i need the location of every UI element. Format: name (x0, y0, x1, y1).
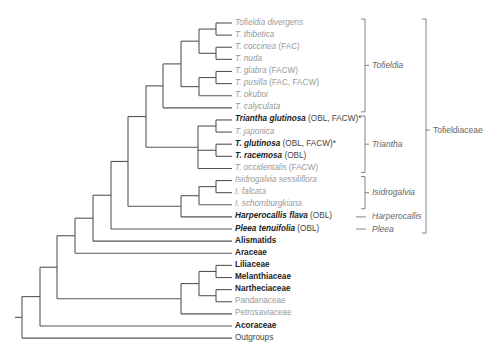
leaf-label: Petrosaviaceae (235, 308, 291, 318)
taxon-name: Pleea tenuifolia (235, 224, 295, 233)
taxon-name: Petrosaviaceae (235, 308, 291, 317)
leaf-label: Tofieldia divergens (235, 18, 303, 28)
taxon-name: Acoraceae (235, 321, 276, 330)
genus-label: Pleea (372, 224, 394, 234)
genus-label: Tofieldia (372, 60, 403, 70)
taxon-name: I. falcata (235, 187, 266, 196)
taxon-name: Tofieldia divergens (235, 18, 303, 27)
leaf-label: Acoraceae (235, 321, 276, 331)
leaf-label: Harperocallis flava (OBL) (235, 211, 332, 221)
leaf-label: Liliaceae (235, 260, 270, 270)
leaf-label: T. calyculata (235, 102, 280, 112)
taxon-name: Isidrogalvia sessiliflora (235, 175, 317, 184)
genus-label: Triantha (372, 139, 403, 149)
leaf-label: T. nuda (235, 54, 262, 64)
taxon-name: Harperocallis flava (235, 211, 308, 220)
taxon-name: Liliaceae (235, 260, 270, 269)
taxon-name: T. nuda (235, 54, 262, 63)
taxon-name: Nartheciaceae (235, 284, 291, 293)
leaf-label: T. racemosa (OBL) (235, 151, 306, 161)
taxon-name: T. glutinosa (235, 139, 280, 148)
habitat-note: (OBL) (295, 224, 319, 233)
taxon-name: T. thibetica (235, 30, 274, 39)
leaf-label: Outgroups (235, 333, 273, 343)
leaf-label: I. schomburgkiana (235, 199, 302, 209)
habitat-note: (FACW) (267, 66, 298, 75)
leaf-label: T. thibetica (235, 30, 274, 40)
leaf-label: I. falcata (235, 187, 266, 197)
genus-label: Isidrogalvia (372, 187, 415, 197)
leaf-label: T. pusilla (FAC, FACW) (235, 78, 319, 88)
taxon-name: Outgroups (235, 333, 273, 342)
leaf-label: Pandanaceae (235, 296, 286, 306)
leaf-label: T. glabra (FACW) (235, 66, 298, 76)
taxon-name: Alismatids (235, 236, 276, 245)
habitat-note: (OBL, FACW)* (280, 139, 336, 148)
leaf-label: Melanthiaceae (235, 272, 291, 282)
leaf-label: T. coccinea (FAC) (235, 42, 300, 52)
leaf-label: Isidrogalvia sessiliflora (235, 175, 317, 185)
taxon-name: T. coccinea (235, 42, 276, 51)
taxon-name: Araceae (235, 248, 267, 257)
taxon-name: I. schomburgkiana (235, 199, 302, 208)
habitat-note: (FAC) (276, 42, 300, 51)
taxon-name: T. japonica (235, 127, 274, 136)
genus-label: Harperocallis (372, 211, 422, 221)
leaf-label: Alismatids (235, 236, 276, 246)
taxon-name: T. racemosa (235, 151, 282, 160)
leaf-label: Triantha glutinosa (OBL, FACW)* (235, 114, 361, 124)
leaf-label: T. occidentalis (FACW) (235, 163, 318, 173)
taxon-name: T. occidentalis (235, 163, 287, 172)
taxon-name: Triantha glutinosa (235, 114, 306, 123)
leaf-label: Nartheciaceae (235, 284, 291, 294)
leaf-label: T. okuboi (235, 90, 268, 100)
habitat-note: (OBL) (308, 211, 332, 220)
taxon-name: Pandanaceae (235, 296, 286, 305)
leaf-label: T. glutinosa (OBL, FACW)* (235, 139, 336, 149)
taxon-name: T. okuboi (235, 90, 268, 99)
taxon-name: T. calyculata (235, 102, 280, 111)
taxon-name: T. glabra (235, 66, 267, 75)
leaf-label: Araceae (235, 248, 267, 258)
family-label: Tofieldiaceae (433, 125, 483, 135)
taxon-name: T. pusilla (235, 78, 267, 87)
habitat-note: (FAC, FACW) (267, 78, 319, 87)
leaf-label: Pleea tenuifolia (OBL) (235, 224, 319, 234)
taxon-name: Melanthiaceae (235, 272, 291, 281)
habitat-note: (FACW) (287, 163, 318, 172)
leaf-label: T. japonica (235, 127, 274, 137)
habitat-note: (OBL, FACW)* (306, 114, 362, 123)
habitat-note: (OBL) (282, 151, 306, 160)
